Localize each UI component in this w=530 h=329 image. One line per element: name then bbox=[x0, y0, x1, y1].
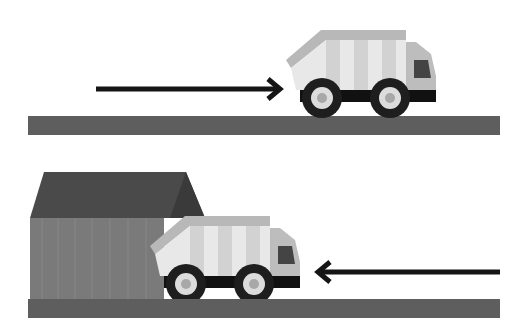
road-bottom bbox=[28, 299, 500, 318]
garbage-truck-top bbox=[286, 30, 436, 118]
road-top bbox=[28, 116, 500, 135]
arrow-right-icon bbox=[96, 79, 280, 99]
garbage-truck-bottom bbox=[150, 216, 300, 304]
scene bbox=[0, 0, 530, 329]
arrow-left-icon bbox=[318, 262, 500, 282]
